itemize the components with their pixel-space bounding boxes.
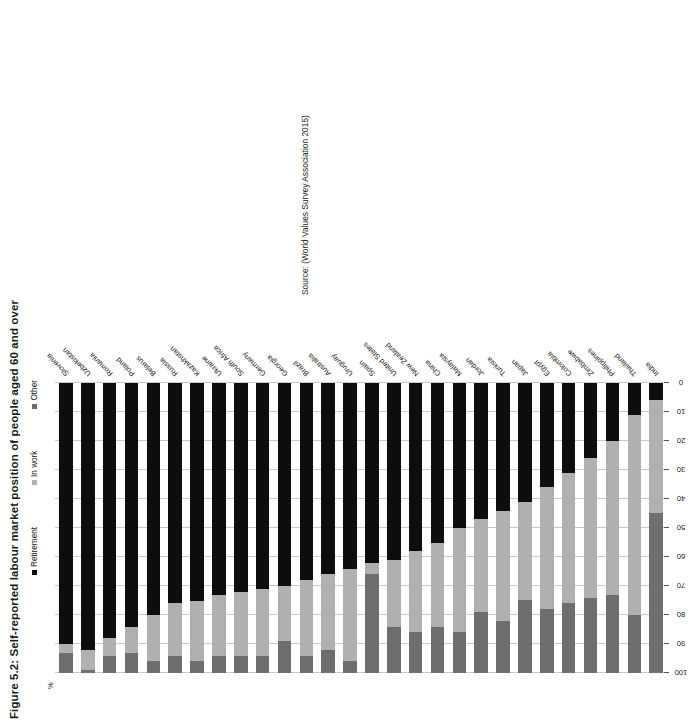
stacked-bar <box>409 383 423 673</box>
bar-row <box>383 383 405 673</box>
x-tick-label: 30 <box>677 465 685 474</box>
bar-segment-other <box>365 574 379 673</box>
category-label: Spain <box>357 358 377 378</box>
category-label: India <box>643 360 661 378</box>
legend-label: Retirement <box>30 527 39 567</box>
bar-segment-in-work <box>300 580 314 655</box>
bar-segment-other <box>649 514 663 674</box>
stacked-bar <box>649 383 663 673</box>
stacked-bar <box>562 383 576 673</box>
bar-segment-retirement <box>649 383 663 400</box>
bar-segment-retirement <box>190 383 204 601</box>
x-tick-label: 40 <box>677 494 685 503</box>
stacked-bar <box>474 383 488 673</box>
bar-row <box>295 383 317 673</box>
bar-row <box>99 383 121 673</box>
bar-segment-other <box>343 661 357 673</box>
bar-segment-other <box>606 595 620 673</box>
bar-segment-in-work <box>518 502 532 601</box>
category-label: Georgia <box>264 353 289 378</box>
bar-segment-retirement <box>453 383 467 528</box>
bar-segment-in-work <box>562 473 576 604</box>
bar-segment-retirement <box>59 383 73 644</box>
x-tick-label: 70 <box>677 581 685 590</box>
legend-swatch-icon <box>32 480 37 485</box>
bar-segment-retirement <box>518 383 532 502</box>
bar-segment-other <box>321 650 335 673</box>
axis-tick <box>664 643 669 644</box>
stacked-bar <box>147 383 161 673</box>
bar-row <box>645 383 667 673</box>
bar-segment-in-work <box>190 601 204 662</box>
bar-row <box>339 383 361 673</box>
stacked-bar <box>431 383 445 673</box>
category-label: Belarus <box>134 354 158 378</box>
bar-row <box>536 383 558 673</box>
figure-title: Figure 5.2: Self-reported labour market … <box>8 300 20 719</box>
bar-segment-retirement <box>321 383 335 574</box>
axis-tick <box>664 382 669 383</box>
bar-segment-retirement <box>562 383 576 473</box>
chart-legend: RetirementIn workOther <box>30 380 39 575</box>
x-tick-label: 60 <box>677 552 685 561</box>
bar-segment-retirement <box>168 383 182 603</box>
bar-segment-in-work <box>343 569 357 662</box>
bar-segment-retirement <box>256 383 270 589</box>
bar-segment-retirement <box>278 383 292 586</box>
stacked-bar <box>300 383 314 673</box>
bar-row <box>317 383 339 673</box>
bar-row <box>142 383 164 673</box>
bar-row <box>252 383 274 673</box>
stacked-bar <box>234 383 248 673</box>
x-tick-label: 90 <box>677 639 685 648</box>
stacked-bar <box>125 383 139 673</box>
bar-segment-in-work <box>540 487 554 609</box>
stacked-bar <box>103 383 117 673</box>
bar-segment-retirement <box>103 383 117 638</box>
bar-row <box>121 383 143 673</box>
bar-segment-retirement <box>628 383 642 415</box>
legend-label: In work <box>30 451 39 477</box>
axis-tick <box>664 469 669 470</box>
bar-row <box>558 383 580 673</box>
bar-segment-in-work <box>431 543 445 627</box>
axis-tick <box>664 498 669 499</box>
source-note: Source: (World Values Survey Association… <box>300 115 310 295</box>
stacked-bar <box>584 383 598 673</box>
bar-segment-retirement <box>365 383 379 563</box>
bar-segment-retirement <box>212 383 226 595</box>
x-tick-label: 10 <box>677 407 685 416</box>
stacked-bar <box>343 383 357 673</box>
bar-segment-other <box>147 661 161 673</box>
bar-row <box>274 383 296 673</box>
category-label: Malaysia <box>437 351 464 378</box>
bar-segment-other <box>300 656 314 673</box>
bar-segment-retirement <box>606 383 620 441</box>
bar-segment-in-work <box>496 511 510 621</box>
bar-segment-retirement <box>474 383 488 519</box>
bar-segment-retirement <box>234 383 248 592</box>
bar-segment-in-work <box>278 586 292 641</box>
category-label: China <box>422 358 442 378</box>
bar-segment-retirement <box>125 383 139 627</box>
category-label: Thailand <box>612 352 638 378</box>
x-tick-label: 20 <box>677 436 685 445</box>
axis-tick <box>664 440 669 441</box>
bar-segment-retirement <box>431 383 445 543</box>
bar-segment-retirement <box>343 383 357 569</box>
axis-tick <box>664 672 669 673</box>
axis-tick <box>664 411 669 412</box>
bar-segment-in-work <box>321 574 335 649</box>
plot-area <box>55 383 667 673</box>
axis-caption: % <box>46 682 55 689</box>
legend-item-other: Other <box>30 380 39 408</box>
category-label: Poland <box>114 356 137 379</box>
category-label: Germany <box>239 350 267 378</box>
bar-segment-other <box>190 661 204 673</box>
legend-swatch-icon <box>32 570 37 575</box>
stacked-bar <box>321 383 335 673</box>
bar-segment-other <box>474 612 488 673</box>
x-tick-label: 50 <box>677 523 685 532</box>
bar-row <box>470 383 492 673</box>
